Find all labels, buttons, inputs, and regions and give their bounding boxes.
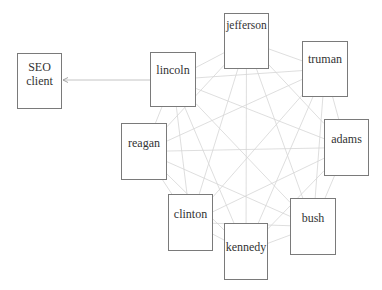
edge-lincoln-truman (196, 71, 302, 78)
node-label: kennedy (226, 240, 267, 254)
node-label: jefferson (226, 19, 267, 31)
node-label: SEO client (26, 60, 53, 88)
edge-lincoln-bush (196, 104, 290, 203)
edge-truman-adams (333, 97, 339, 119)
edge-adams-reagan (167, 148, 324, 151)
node-adams[interactable]: adams (324, 119, 369, 176)
node-lincoln[interactable]: lincoln (150, 52, 196, 107)
edge-truman-bush (315, 97, 323, 198)
edge-jefferson-bush (257, 69, 303, 198)
node-truman[interactable]: truman (302, 41, 348, 97)
node-bush[interactable]: bush (290, 198, 336, 255)
edge-jefferson-truman (269, 49, 302, 61)
node-label: bush (302, 211, 325, 225)
node-jefferson[interactable]: jefferson (224, 13, 269, 69)
node-clinton[interactable]: clinton (168, 194, 213, 251)
node-kennedy[interactable]: kennedy (224, 223, 268, 280)
edge-kennedy-clinton (213, 234, 224, 240)
edge-truman-clinton (213, 95, 302, 197)
node-label: clinton (174, 207, 207, 221)
node-label: reagan (128, 136, 160, 150)
node-reagan[interactable]: reagan (121, 123, 167, 180)
node-label: lincoln (156, 63, 189, 77)
edge-lincoln-reagan (155, 107, 161, 123)
edge-lincoln-jefferson (196, 53, 224, 68)
node-seo-client[interactable]: SEO client (17, 53, 62, 109)
edge-adams-bush (325, 176, 334, 198)
edge-clinton-reagan (163, 180, 172, 194)
node-label: adams (331, 132, 362, 146)
node-label: truman (308, 52, 342, 66)
edge-bush-kennedy (268, 235, 290, 243)
